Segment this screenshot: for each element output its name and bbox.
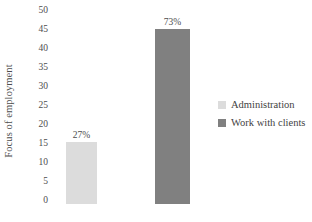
legend-swatch-icon <box>218 101 226 109</box>
bar-administration[interactable] <box>66 142 97 204</box>
y-axis-tick-label: 30 <box>24 81 48 91</box>
y-axis-tick-label: 45 <box>24 24 48 34</box>
y-axis-tick-label: 35 <box>24 62 48 72</box>
y-axis-tick-label: 40 <box>24 43 48 53</box>
legend-item-administration[interactable]: Administration <box>218 97 305 112</box>
bar-value-label: 73% <box>164 17 181 27</box>
bar-work-with-clients[interactable] <box>155 29 190 204</box>
y-axis-tick-label: 50 <box>24 5 48 15</box>
bar-group-administration: 27% <box>66 142 97 204</box>
bar-chart: Focus of employment 50 45 40 35 30 25 20… <box>0 0 312 222</box>
bar-group-work-with-clients: 73% <box>155 29 190 204</box>
y-axis-tick-labels: 50 45 40 35 30 25 20 15 10 5 0 <box>24 0 48 222</box>
legend-item-work-with-clients[interactable]: Work with clients <box>218 115 305 130</box>
y-axis-title: Focus of employment <box>0 0 16 222</box>
legend-item-label: Work with clients <box>231 117 305 128</box>
y-axis-tick-label: 20 <box>24 119 48 129</box>
legend-swatch-icon <box>218 119 226 127</box>
y-axis-tick-label: 25 <box>24 100 48 110</box>
bar-value-label: 27% <box>73 130 90 140</box>
y-axis-tick-label: 0 <box>24 195 48 205</box>
legend-item-label: Administration <box>231 99 295 110</box>
legend: Administration Work with clients <box>218 97 305 133</box>
y-axis-tick-label: 10 <box>24 157 48 167</box>
y-axis-tick-label: 15 <box>24 138 48 148</box>
y-axis-tick-label: 5 <box>24 176 48 186</box>
